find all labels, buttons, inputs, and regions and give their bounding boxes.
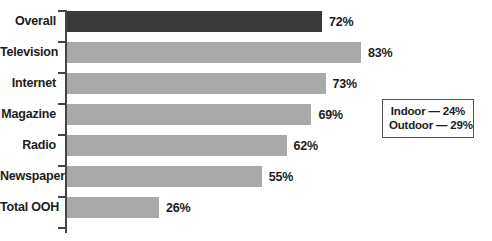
- axis-tick: [58, 72, 66, 74]
- table-row: Overall 72%: [0, 10, 492, 41]
- bar-overall[interactable]: [67, 11, 322, 32]
- bar-container: 69%: [67, 104, 343, 125]
- bar-category-label: Total OOH: [0, 199, 56, 216]
- table-row: Newspaper 55%: [0, 165, 492, 196]
- bar-total-ooh[interactable]: [67, 197, 159, 218]
- legend-callout-box: Indoor — 24% Outdoor — 29%: [382, 99, 474, 138]
- bar-category-label: Internet: [0, 75, 56, 92]
- axis-tick: [58, 196, 66, 198]
- legend-item-outdoor: Outdoor — 29%: [389, 118, 467, 132]
- legend-item-indoor: Indoor — 24%: [389, 104, 467, 118]
- bar-chart: Overall 72% Television 83% Internet 73% …: [0, 0, 492, 241]
- bar-value-label: 55%: [269, 170, 293, 184]
- axis-tick: [58, 103, 66, 105]
- bar-value-label: 72%: [329, 15, 353, 29]
- bar-container: 83%: [67, 42, 392, 63]
- table-row: Television 83%: [0, 41, 492, 72]
- table-row: Radio 62%: [0, 134, 492, 165]
- bar-television[interactable]: [67, 42, 361, 63]
- bar-category-label: Overall: [0, 13, 56, 30]
- bar-value-label: 26%: [166, 201, 190, 215]
- bar-newspaper[interactable]: [67, 166, 262, 187]
- axis-tick: [58, 134, 66, 136]
- bar-container: 26%: [67, 197, 191, 218]
- axis-tick: [58, 227, 66, 229]
- bar-value-label: 83%: [368, 46, 392, 60]
- bar-magazine[interactable]: [67, 104, 311, 125]
- axis-tick: [58, 165, 66, 167]
- bar-category-label: Radio: [0, 137, 56, 154]
- axis-tick: [58, 10, 66, 12]
- table-row: Total OOH 26%: [0, 196, 492, 227]
- bar-category-label: Television: [0, 44, 56, 61]
- bar-value-label: 69%: [318, 108, 342, 122]
- bar-container: 73%: [67, 73, 357, 94]
- bar-category-label: Magazine: [0, 106, 56, 123]
- bar-container: 62%: [67, 135, 318, 156]
- bar-radio[interactable]: [67, 135, 287, 156]
- bar-value-label: 73%: [333, 77, 357, 91]
- bar-category-label: Newspaper: [0, 168, 56, 185]
- bar-internet[interactable]: [67, 73, 326, 94]
- bar-container: 72%: [67, 11, 353, 32]
- axis-tick: [58, 41, 66, 43]
- bar-container: 55%: [67, 166, 293, 187]
- bar-value-label: 62%: [294, 139, 318, 153]
